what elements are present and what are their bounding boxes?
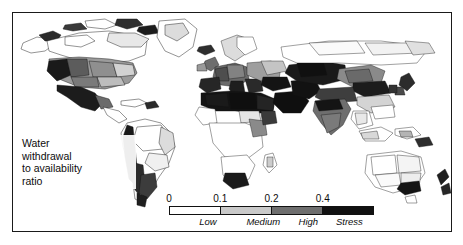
legend-tick-3: 0.4 <box>315 193 331 204</box>
legend-segment-high <box>271 207 322 214</box>
legend-category-labels: LowMediumHighStress <box>169 216 374 229</box>
legend-tick-1: 0.1 <box>212 193 228 204</box>
legend-segment-stress <box>322 207 373 214</box>
figure-panel: Water withdrawal to availability ratio 0… <box>12 12 452 232</box>
legend-label-high: High <box>298 216 320 227</box>
caption-line-3: to availability <box>22 162 134 175</box>
legend-segment-low <box>170 207 220 214</box>
legend-color-bar <box>169 206 374 215</box>
chart-caption: Water withdrawal to availability ratio <box>21 135 136 189</box>
caption-line-2: withdrawal <box>22 150 134 163</box>
legend-tick-2: 0.2 <box>264 193 280 204</box>
legend-tick-labels: 00.10.20.4 <box>169 193 381 206</box>
caption-line-1: Water <box>22 137 134 150</box>
legend-label-stress: Stress <box>335 216 364 227</box>
legend-label-medium: Medium <box>245 216 281 227</box>
legend-segment-medium <box>220 207 271 214</box>
legend-label-low: Low <box>198 216 217 227</box>
legend: 00.10.20.4 LowMediumHighStress <box>169 193 381 229</box>
caption-line-4: ratio <box>22 175 134 188</box>
legend-tick-0: 0 <box>165 193 173 204</box>
